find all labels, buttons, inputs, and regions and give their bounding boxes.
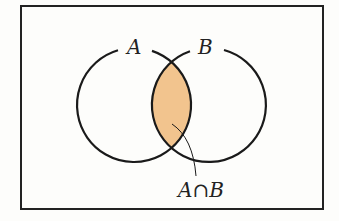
intersection-label-right: B	[209, 178, 224, 202]
intersection-label: A∩B	[178, 180, 224, 200]
intersection-symbol: ∩	[192, 178, 209, 202]
venn-diagram	[0, 0, 339, 221]
set-b-label: B	[198, 37, 213, 57]
intersection-label-left: A	[178, 178, 192, 202]
set-a-label: A	[127, 37, 141, 57]
